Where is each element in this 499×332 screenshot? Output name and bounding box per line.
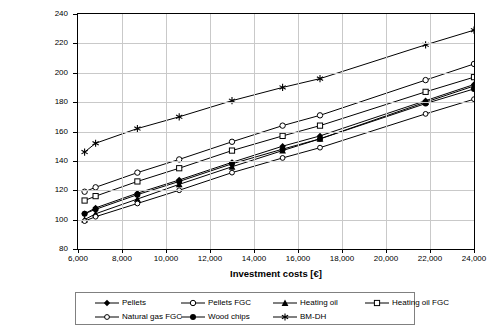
series-heating-oil: [81, 83, 474, 223]
x-tick-mark: [122, 249, 123, 253]
legend-label: Heating oil FGC: [392, 297, 449, 309]
data-point-marker: [230, 170, 235, 175]
legend-marker-open-square-icon: [364, 297, 390, 309]
series-line: [85, 30, 474, 152]
legend-marker-filled-diamond-icon: [94, 297, 120, 309]
y-gridline: [78, 132, 474, 133]
data-point-marker: [280, 133, 285, 138]
y-gridline: [78, 220, 474, 221]
x-tick-label: 10,000: [146, 254, 186, 263]
x-tick-label: 20,000: [366, 254, 406, 263]
data-point-marker: [280, 123, 285, 128]
y-tick-mark: [73, 249, 77, 250]
y-tick-mark: [73, 102, 77, 103]
x-tick-label: 16,000: [278, 254, 318, 263]
data-point-marker: [93, 185, 98, 190]
x-gridline: [386, 14, 387, 249]
y-tick-mark: [73, 14, 77, 15]
x-tick-mark: [78, 249, 79, 253]
data-point-marker: [104, 300, 110, 306]
legend-marker-filled-triangle-icon: [272, 297, 298, 309]
data-point-marker: [423, 89, 428, 94]
data-point-marker: [92, 140, 98, 147]
data-point-marker: [280, 156, 285, 161]
x-tick-label: 12,000: [190, 254, 230, 263]
y-gridline: [78, 102, 474, 103]
legend-label: BM-DH: [300, 311, 326, 323]
y-tick-label: 80: [43, 244, 68, 253]
x-tick-label: 22,000: [410, 254, 450, 263]
data-point-marker: [190, 300, 195, 305]
data-point-marker: [176, 178, 182, 184]
y-tick-label: 180: [43, 97, 68, 106]
chart-container: Specific heat generation costs [€/MWhₕₑ]…: [0, 0, 499, 332]
data-point-marker: [229, 139, 234, 144]
data-point-marker: [471, 61, 474, 66]
data-point-marker: [93, 214, 98, 219]
data-point-marker: [177, 166, 182, 171]
y-tick-label: 240: [43, 9, 68, 18]
x-tick-label: 24,000: [454, 254, 494, 263]
legend-marker-star-icon: [272, 311, 298, 323]
legend-marker-filled-circle-icon: [180, 311, 206, 323]
y-tick-label: 120: [43, 185, 68, 194]
y-gridline: [78, 73, 474, 74]
data-point-marker: [93, 206, 99, 212]
x-axis-title: Investment costs [€]: [77, 268, 475, 279]
data-point-marker: [422, 41, 428, 48]
y-gridline: [78, 190, 474, 191]
data-point-marker: [280, 146, 286, 152]
x-tick-mark: [474, 249, 475, 253]
x-tick-mark: [430, 249, 431, 253]
y-tick-mark: [73, 220, 77, 221]
x-gridline: [254, 14, 255, 249]
legend-marker-open-circle-icon: [180, 297, 206, 309]
x-gridline: [342, 14, 343, 249]
series-line: [85, 64, 474, 192]
x-tick-mark: [210, 249, 211, 253]
y-tick-label: 220: [43, 38, 68, 47]
data-point-marker: [135, 201, 140, 206]
x-gridline: [210, 14, 211, 249]
data-point-marker: [135, 179, 140, 184]
data-point-marker: [176, 113, 182, 120]
x-tick-mark: [342, 249, 343, 253]
y-tick-mark: [73, 132, 77, 133]
y-tick-label: 140: [43, 156, 68, 165]
data-point-marker: [471, 75, 474, 80]
y-tick-label: 100: [43, 215, 68, 224]
legend-label: Natural gas FGC: [122, 311, 182, 323]
x-gridline: [298, 14, 299, 249]
data-point-marker: [82, 198, 87, 203]
y-tick-mark: [73, 190, 77, 191]
series-heating-oil-fgc: [82, 75, 474, 204]
plot-area: [77, 13, 475, 250]
data-point-marker: [318, 145, 323, 150]
x-tick-mark: [166, 249, 167, 253]
data-point-marker: [82, 211, 88, 217]
legend-label: Pellets FGC: [208, 297, 251, 309]
data-point-marker: [317, 136, 323, 142]
series-line: [85, 86, 474, 220]
y-tick-label: 160: [43, 127, 68, 136]
data-point-marker: [229, 148, 234, 153]
x-tick-label: 8,000: [102, 254, 142, 263]
data-point-marker: [81, 148, 87, 155]
data-point-marker: [317, 113, 322, 118]
chart-legend: PelletsPellets FGCHeating oilHeating oil…: [75, 292, 415, 325]
x-tick-label: 14,000: [234, 254, 274, 263]
data-point-marker: [135, 170, 140, 175]
data-point-marker: [423, 111, 428, 116]
data-point-marker: [317, 123, 322, 128]
x-gridline: [122, 14, 123, 249]
data-point-marker: [134, 192, 140, 198]
data-point-marker: [423, 77, 428, 82]
y-tick-mark: [73, 73, 77, 74]
series-line: [85, 77, 474, 200]
x-tick-label: 18,000: [322, 254, 362, 263]
data-point-marker: [317, 75, 323, 82]
x-gridline: [430, 14, 431, 249]
y-tick-mark: [73, 43, 77, 44]
data-point-marker: [229, 97, 235, 104]
data-point-marker: [105, 315, 110, 320]
